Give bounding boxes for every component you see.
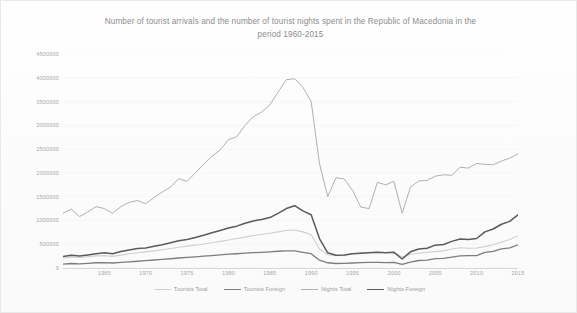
x-axis-tick-label: 1970 (139, 270, 152, 276)
series-line-nights-total (63, 79, 518, 217)
x-axis-tick-label: 1965 (98, 270, 111, 276)
chart-title-line-2: period 1960-2015 (258, 30, 324, 39)
y-axis-tick-label: 0 (56, 265, 59, 271)
legend-label: Tourists Foreign (244, 286, 285, 292)
y-axis-tick-label: 2500000 (36, 146, 59, 152)
x-axis-line (63, 268, 518, 269)
x-axis-tick-label: 1975 (181, 270, 194, 276)
legend-item-tourists-total[interactable]: Tourists Total (154, 286, 208, 292)
y-axis-tick-label: 1000000 (36, 217, 59, 223)
x-axis-tick-label: 1995 (346, 270, 359, 276)
x-axis-tick-label: 2005 (429, 270, 442, 276)
legend-label: Tourists Total (174, 286, 208, 292)
legend-swatch-icon (154, 289, 171, 290)
legend-swatch-icon (224, 289, 241, 290)
x-axis-tick-label: 1980 (222, 270, 235, 276)
series-line-tourists-foreign (63, 245, 518, 265)
y-axis-tick-label: 3000000 (36, 122, 59, 128)
legend-item-nights-total[interactable]: Nights Total (301, 286, 351, 292)
legend-item-tourists-foreign[interactable]: Tourists Foreign (224, 286, 285, 292)
y-axis-tick-label: 2000000 (36, 170, 59, 176)
y-axis-tick-labels: 4500000400000035000003000000250000020000… (15, 54, 59, 268)
y-axis-tick-label: 500000 (39, 241, 59, 247)
legend-item-nights-foreign[interactable]: Nights Foreign (367, 286, 425, 292)
series-line-tourists-total (63, 230, 518, 258)
y-axis-tick-label: 3500000 (36, 99, 59, 105)
chart-legend: Tourists TotalTourists ForeignNights Tot… (1, 286, 577, 292)
legend-swatch-icon (367, 289, 384, 290)
x-axis-tick-label: 2000 (387, 270, 400, 276)
y-axis-tick-label: 4500000 (36, 51, 59, 57)
x-axis-tick-labels: 1965197019751980198519901995200020052010… (63, 270, 518, 280)
x-axis-tick-label: 2010 (470, 270, 483, 276)
plot-area (63, 54, 518, 268)
x-axis-tick-label: 1990 (305, 270, 318, 276)
chart-title-line-1: Number of tourist arrivals and the numbe… (105, 17, 476, 26)
y-axis-tick-label: 4000000 (36, 75, 59, 81)
chart-figure: Number of tourist arrivals and the numbe… (0, 0, 577, 313)
chart-title: Number of tourist arrivals and the numbe… (63, 15, 518, 41)
y-axis-tick-label: 1500000 (36, 194, 59, 200)
x-axis-tick-label: 2015 (511, 270, 524, 276)
x-axis-tick-label: 1985 (263, 270, 276, 276)
series-lines (63, 54, 518, 268)
legend-swatch-icon (301, 289, 318, 290)
legend-label: Nights Total (321, 286, 351, 292)
legend-label: Nights Foreign (387, 286, 425, 292)
